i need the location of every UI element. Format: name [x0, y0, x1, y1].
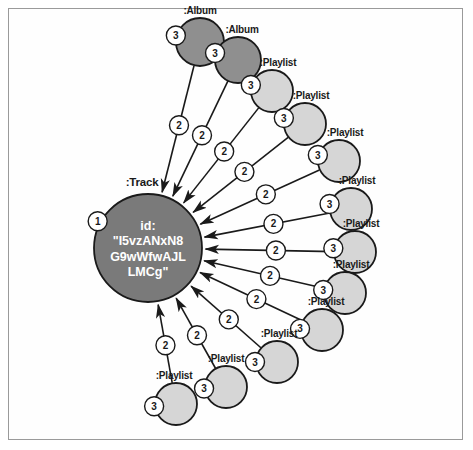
track-node-badge: 1	[88, 212, 107, 231]
playlist-node-label: :Playlist	[208, 353, 245, 364]
playlist-node-label: :Playlist	[339, 175, 376, 186]
track-node-label: :Track	[126, 176, 159, 188]
track-node-badge-text: 1	[95, 216, 101, 227]
edge-badge-text: 2	[221, 146, 227, 157]
node-badge: 3	[241, 75, 260, 94]
track-id-line: id:	[140, 219, 155, 233]
playlist-node-label: :Playlist	[343, 218, 380, 229]
edge-badge: 2	[264, 214, 283, 233]
node-badge-text: 3	[315, 150, 321, 161]
edge-badge-text: 2	[199, 130, 205, 141]
graph-canvas: id:"I5vzANxN8G9wWfwAJLLMCg" 222222222222…	[0, 0, 473, 450]
edge-badge-text: 2	[254, 294, 260, 305]
album-node-label: :Album	[225, 24, 258, 35]
edge-badge-text: 2	[267, 270, 273, 281]
node-badge-text: 3	[252, 357, 258, 368]
playlist-node-label: :Playlist	[260, 57, 297, 68]
edge-badge: 2	[261, 266, 280, 285]
node-badge: 3	[145, 397, 164, 416]
node-badge-text: 3	[331, 243, 337, 254]
node-badge-text: 3	[248, 80, 254, 91]
edge-badge-text: 2	[176, 120, 182, 131]
edge-badge: 2	[247, 290, 266, 309]
track-id-line: "I5vzANxN8	[113, 234, 184, 248]
edge-badge: 2	[192, 126, 211, 145]
edge-badge: 2	[187, 326, 206, 345]
node-badge-text: 3	[297, 323, 303, 334]
diagram-page: id:"I5vzANxN8G9wWfwAJLLMCg" 222222222222…	[0, 0, 473, 450]
edge-badge-text: 2	[226, 314, 232, 325]
edge-badge: 2	[215, 142, 234, 161]
node-badge: 3	[206, 43, 225, 62]
node-badge: 3	[274, 108, 293, 127]
node-badge-text: 3	[201, 383, 207, 394]
node-badge-text: 3	[320, 285, 326, 296]
track-node[interactable]: id:"I5vzANxN8G9wWfwAJLLMCg"	[94, 194, 202, 302]
node-badge-text: 3	[281, 113, 287, 124]
playlist-node-label: :Playlist	[261, 328, 298, 339]
edge-badge: 2	[156, 336, 175, 355]
album-node-label: :Album	[183, 5, 216, 16]
node-badge-text: 3	[151, 401, 157, 412]
playlist-node-label: :Playlist	[293, 90, 330, 101]
node-badge-text: 3	[173, 30, 179, 41]
edge-badge: 2	[266, 241, 285, 260]
node-badge: 3	[195, 379, 214, 398]
playlist-node-label: :Playlist	[308, 296, 345, 307]
edge-badge-text: 2	[242, 166, 248, 177]
edge-badge-text: 2	[271, 218, 277, 229]
edge-badge-text: 2	[194, 330, 200, 341]
edge-badge: 2	[256, 185, 275, 204]
node-badge-text: 3	[212, 48, 218, 59]
edge-badge: 2	[169, 116, 188, 135]
playlist-node-label: :Playlist	[156, 370, 193, 381]
edge-badge: 2	[219, 310, 238, 329]
node-badge-text: 3	[327, 199, 333, 210]
center-node-layer: id:"I5vzANxN8G9wWfwAJLLMCg"	[94, 194, 202, 302]
node-badge: 3	[166, 26, 185, 45]
node-badge: 3	[324, 239, 343, 258]
track-id-line: LMCg"	[128, 265, 169, 279]
edge-badge-text: 2	[273, 245, 279, 256]
playlist-node-label: :Playlist	[333, 259, 370, 270]
edge-badge: 2	[235, 162, 254, 181]
node-badge: 3	[320, 195, 339, 214]
track-id-line: G9wWfwAJL	[110, 250, 186, 264]
edge-badge-text: 2	[163, 340, 169, 351]
playlist-node-label: :Playlist	[327, 127, 364, 138]
node-badge: 3	[246, 353, 265, 372]
edge-badge-text: 2	[263, 189, 269, 200]
node-badge: 3	[308, 145, 327, 164]
